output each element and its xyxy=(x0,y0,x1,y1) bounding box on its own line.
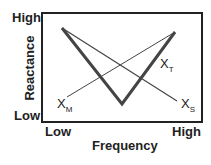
x-tick-high: High xyxy=(172,124,201,139)
xm-label: XM xyxy=(57,96,72,114)
y-tick-high: High xyxy=(12,10,41,25)
xs-label: XS xyxy=(181,96,195,114)
xt-label: XT xyxy=(160,56,174,74)
y-tick-low: Low xyxy=(14,108,40,123)
x-tick-low: Low xyxy=(45,124,71,139)
y-axis-label: Reactance xyxy=(22,35,37,100)
x-axis-label: Frequency xyxy=(92,138,158,153)
